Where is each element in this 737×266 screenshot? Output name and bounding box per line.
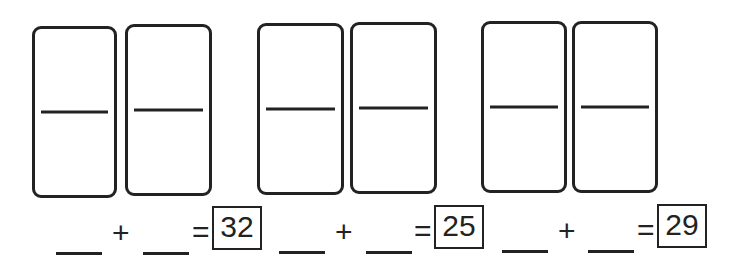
sum-box: 29: [657, 204, 707, 248]
addend-2-blank[interactable]: [588, 250, 634, 253]
domino-2b-bottom-half[interactable]: [353, 108, 434, 191]
equals-sign: =: [637, 215, 655, 245]
domino-3a-bottom-half[interactable]: [484, 107, 564, 190]
domino-3a-top-half[interactable]: [484, 24, 564, 107]
addend-1-blank[interactable]: [56, 252, 102, 255]
domino-1b-bottom-half[interactable]: [128, 110, 209, 193]
addend-2-blank[interactable]: [143, 252, 189, 255]
domino-1b-top-half[interactable]: [128, 27, 209, 110]
equals-sign: =: [414, 216, 432, 246]
plus-sign: +: [335, 217, 353, 247]
domino-3b[interactable]: [572, 21, 658, 193]
addend-1-blank[interactable]: [279, 251, 325, 254]
domino-1a-top-half[interactable]: [35, 29, 114, 112]
domino-3a[interactable]: [481, 21, 567, 193]
domino-3b-top-half[interactable]: [575, 24, 655, 107]
domino-1b[interactable]: [125, 24, 212, 196]
domino-3b-bottom-half[interactable]: [575, 107, 655, 190]
domino-2a-top-half[interactable]: [260, 26, 341, 109]
sum-box: 32: [212, 206, 262, 250]
sum-box: 25: [434, 205, 484, 249]
addend-2-blank[interactable]: [366, 251, 412, 254]
equals-sign: =: [192, 217, 210, 247]
domino-2b-top-half[interactable]: [353, 25, 434, 108]
addend-1-blank[interactable]: [502, 250, 548, 253]
domino-2a[interactable]: [257, 23, 344, 195]
plus-sign: +: [112, 218, 130, 248]
plus-sign: +: [558, 216, 576, 246]
domino-2b[interactable]: [350, 22, 437, 194]
domino-1a[interactable]: [32, 26, 117, 198]
domino-1a-bottom-half[interactable]: [35, 112, 114, 195]
domino-2a-bottom-half[interactable]: [260, 109, 341, 192]
